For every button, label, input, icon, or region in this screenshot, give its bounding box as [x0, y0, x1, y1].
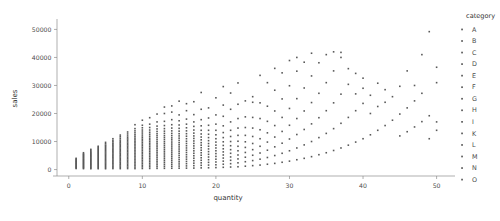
scatter-point	[370, 134, 372, 136]
scatter-point	[156, 137, 158, 139]
scatter-point	[222, 116, 224, 118]
scatter-point	[156, 157, 158, 159]
scatter-point	[164, 113, 166, 115]
legend-item-h[interactable]: H	[472, 106, 477, 114]
legend-item-a[interactable]: A	[472, 26, 477, 34]
scatter-point	[215, 153, 217, 155]
scatter-point	[142, 140, 144, 142]
scatter-point	[149, 144, 151, 146]
scatter-point	[289, 108, 291, 110]
scatter-point	[149, 127, 151, 129]
scatter-point	[230, 166, 232, 168]
scatter-point	[149, 142, 151, 144]
scatter-point	[237, 158, 239, 160]
scatter-point	[171, 139, 173, 141]
scatter-point	[436, 66, 438, 68]
scatter-point	[289, 160, 291, 162]
legend-marker-dot-icon[interactable]	[461, 167, 463, 169]
legend-item-c[interactable]: C	[472, 49, 477, 57]
clipped-header-text	[4, 0, 304, 6]
scatter-point	[289, 138, 291, 140]
legend-marker-dot-icon[interactable]	[461, 98, 463, 100]
scatter-point	[237, 82, 239, 84]
legend-marker-dot-icon[interactable]	[461, 133, 463, 135]
scatter-point	[355, 110, 357, 112]
scatter-point	[134, 147, 136, 149]
legend-item-d[interactable]: D	[472, 60, 477, 68]
legend-item-k[interactable]: K	[472, 130, 477, 138]
scatter-point	[245, 156, 247, 158]
scatter-point	[149, 133, 151, 135]
scatter-point	[333, 128, 335, 130]
scatter-point	[200, 149, 202, 151]
scatter-point	[164, 148, 166, 150]
scatter-point	[127, 164, 129, 166]
legend-item-b[interactable]: B	[472, 37, 476, 45]
scatter-point	[428, 31, 430, 33]
scatter-point	[274, 125, 276, 127]
scatter-point	[171, 157, 173, 159]
legend-item-g[interactable]: G	[472, 95, 477, 103]
scatter-point	[178, 135, 180, 137]
scatter-point	[259, 145, 261, 147]
scatter-point	[245, 127, 247, 129]
scatter-point	[208, 137, 210, 139]
legend-marker-dot-icon[interactable]	[461, 179, 463, 181]
scatter-point	[142, 131, 144, 133]
scatter-point	[399, 113, 401, 115]
scatter-point	[149, 147, 151, 149]
legend-marker-dot-icon[interactable]	[461, 75, 463, 77]
scatter-point	[208, 140, 210, 142]
scatter-point	[186, 145, 188, 147]
scatter-point	[384, 89, 386, 91]
scatter-point	[134, 154, 136, 156]
legend-marker-dot-icon[interactable]	[461, 63, 463, 65]
scatter-point	[281, 142, 283, 144]
scatter-point	[259, 152, 261, 154]
scatter-point	[340, 93, 342, 95]
scatter-point	[164, 160, 166, 162]
scatter-point	[318, 154, 320, 156]
scatter-point	[193, 126, 195, 128]
legend-marker-dot-icon[interactable]	[461, 121, 463, 123]
scatter-point	[171, 119, 173, 121]
legend-marker-dot-icon[interactable]	[461, 86, 463, 88]
legend-marker-dot-icon[interactable]	[461, 29, 463, 31]
scatter-point	[142, 161, 144, 163]
legend-item-l[interactable]: L	[472, 141, 476, 149]
scatter-point	[171, 137, 173, 139]
scatter-point	[142, 124, 144, 126]
legend-marker-dot-icon[interactable]	[461, 156, 463, 158]
y-tick-label: 30000	[32, 82, 52, 89]
scatter-point	[134, 132, 136, 134]
legend-marker-dot-icon[interactable]	[461, 109, 463, 111]
scatter-point	[186, 130, 188, 132]
scatter-point	[193, 165, 195, 167]
scatter-point	[127, 147, 129, 149]
legend-item-i[interactable]: I	[472, 118, 474, 126]
legend-marker-dot-icon[interactable]	[461, 144, 463, 146]
scatter-point	[186, 154, 188, 156]
legend-item-n[interactable]: N	[472, 164, 477, 172]
legend-item-f[interactable]: F	[472, 83, 476, 91]
legend-marker-dot-icon[interactable]	[461, 52, 463, 54]
chart-canvas: 0100002000030000400005000001020304050qua…	[0, 0, 500, 221]
scatter-point	[171, 159, 173, 161]
scatter-point	[186, 161, 188, 163]
scatter-point	[289, 85, 291, 87]
scatter-point	[178, 142, 180, 144]
legend-item-e[interactable]: E	[472, 72, 476, 80]
scatter-point	[164, 141, 166, 143]
scatter-point	[267, 163, 269, 165]
scatter-point	[178, 133, 180, 135]
scatter-point	[274, 68, 276, 70]
legend-item-m[interactable]: M	[472, 153, 478, 161]
scatter-point	[119, 141, 121, 143]
scatter-point	[200, 139, 202, 141]
scatter-point	[237, 135, 239, 137]
scatter-point	[193, 140, 195, 142]
scatter-point	[274, 89, 276, 91]
legend-item-o[interactable]: O	[472, 176, 477, 184]
scatter-point	[149, 153, 151, 155]
legend-marker-dot-icon[interactable]	[461, 40, 463, 42]
